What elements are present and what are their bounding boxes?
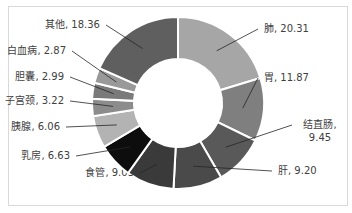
data-label-0: 肺, 20.31	[264, 23, 309, 34]
data-label-9: 白血病, 2.87	[7, 44, 66, 56]
data-label-6: 胰腺, 6.06	[11, 120, 60, 132]
donut-chart: 肺, 20.31胃, 11.87结直肠,9.45肝, 9.20食管, 9.03乳…	[0, 0, 352, 213]
data-label-5: 乳房, 6.63	[21, 149, 70, 161]
data-label-7: 子宫颈, 3.22	[5, 94, 64, 106]
data-label-2-value: 9.45	[309, 132, 331, 143]
data-label-8: 胆囊, 2.99	[15, 70, 64, 82]
slice-0	[178, 17, 260, 90]
data-label-2: 结直肠,	[303, 118, 336, 130]
data-label-3: 肝, 9.20	[278, 165, 317, 176]
data-label-10: 其他, 18.36	[45, 18, 100, 30]
data-label-1: 胃, 11.87	[264, 72, 309, 83]
